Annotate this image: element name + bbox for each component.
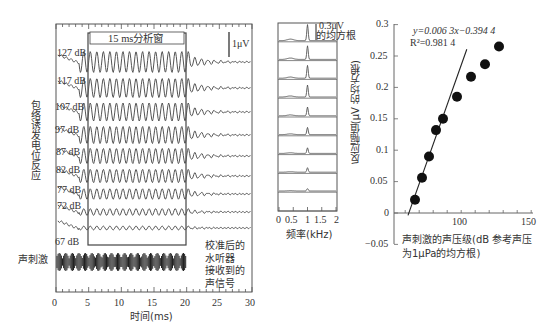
data-point bbox=[452, 92, 462, 102]
x-tick: 100 bbox=[452, 216, 467, 228]
right-x-axis-label-line2: 为1μPa的均方根) bbox=[402, 248, 480, 260]
data-point bbox=[480, 59, 490, 69]
level-label-127: 127 dB bbox=[57, 47, 86, 59]
data-point bbox=[417, 173, 427, 183]
right-x-axis-label-line1: 声刺激的声压级(dB 参考声压 bbox=[402, 234, 532, 246]
fit-equation: y=0.006 3x−0.394 4 bbox=[413, 25, 495, 37]
fit-r-squared: R²=0.981 4 bbox=[410, 37, 455, 49]
freq-tick: 0 bbox=[276, 214, 281, 226]
x-tick: 10 bbox=[114, 297, 124, 309]
right-y-axis-label: 反应幅值(μV 的均方根) bbox=[350, 60, 362, 164]
x-tick: 0 bbox=[52, 297, 57, 309]
y-tick: 0.1 bbox=[376, 144, 389, 156]
level-label-82: 82 dB bbox=[56, 164, 80, 176]
level-label-87: 87 dB bbox=[56, 146, 80, 158]
x-tick: 30 bbox=[245, 297, 255, 309]
freq-tick: 1.5 bbox=[314, 214, 327, 226]
data-point bbox=[438, 114, 448, 124]
x-tick: 5 bbox=[85, 297, 90, 309]
data-point bbox=[466, 72, 476, 82]
y-tick: 0.05 bbox=[370, 175, 388, 187]
level-label-117: 117 dB bbox=[57, 75, 86, 87]
data-point bbox=[431, 125, 441, 135]
data-point bbox=[410, 195, 420, 205]
y-tick: 0.25 bbox=[370, 50, 388, 62]
level-label-77: 77 dB bbox=[57, 184, 81, 196]
level-label-72: 72 dB bbox=[57, 200, 81, 212]
analysis-window-label: 15 ms分析窗 bbox=[108, 33, 163, 45]
scatter-panel bbox=[394, 24, 533, 244]
spectrum-panel bbox=[278, 23, 337, 211]
left-y-axis-label: 包络诱发电位反应 bbox=[28, 100, 40, 180]
y-tick: 0 bbox=[384, 207, 389, 219]
freq-tick: 0.5 bbox=[285, 214, 298, 226]
y-tick: 0.3 bbox=[376, 18, 389, 30]
level-label-67: 67 dB bbox=[55, 236, 79, 248]
data-point bbox=[494, 42, 504, 52]
level-label-97: 97 dB bbox=[55, 124, 79, 136]
scale-label-rms: 的均方根 bbox=[316, 31, 356, 41]
stimulus-label: 声刺激 bbox=[18, 254, 48, 266]
y-tick: 0.15 bbox=[370, 112, 388, 124]
scale-label-1uv: 1μV bbox=[232, 38, 250, 50]
x-tick: 150 bbox=[521, 216, 536, 228]
middle-x-axis-label: 频率(kHz) bbox=[286, 229, 332, 241]
level-label-107: 107 dB bbox=[55, 101, 84, 113]
y-tick: −0.05 bbox=[365, 238, 388, 250]
freq-tick: 2 bbox=[334, 214, 339, 226]
left-x-axis-label: 时间(ms) bbox=[130, 311, 173, 323]
freq-tick: 1 bbox=[305, 214, 310, 226]
x-tick: 15 bbox=[147, 297, 157, 309]
x-tick: 25 bbox=[212, 297, 222, 309]
y-tick: 0.2 bbox=[376, 81, 389, 93]
data-point bbox=[424, 151, 434, 161]
stimulus-note: 校准后的 水听器 接收到的 声信号 bbox=[205, 240, 245, 290]
x-tick: 20 bbox=[180, 297, 190, 309]
